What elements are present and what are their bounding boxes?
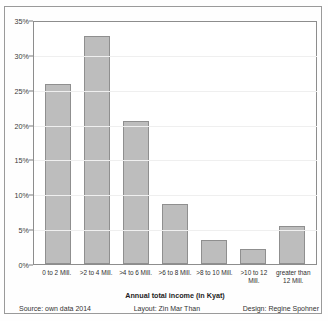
credit-source: Source: own data 2014	[19, 305, 91, 312]
bar-slot	[234, 22, 273, 264]
x-axis-tick-label: >2 to 4 Mill.	[76, 267, 115, 289]
x-axis-tick-label: >4 to 6 Mill.	[116, 267, 155, 289]
y-axis-tick-mark	[29, 265, 33, 266]
credits-row: Source: own data 2014 Layout: Zin Mar Th…	[19, 305, 319, 312]
y-axis-tick-mark	[29, 21, 33, 22]
x-axis-tick-label: >6 to 8 Mill.	[155, 267, 194, 289]
page-frame: 0 to 2 Mill.>2 to 4 Mill.>4 to 6 Mill.>6…	[4, 6, 322, 314]
x-axis-tick-label: greater than 12 Mill.	[274, 267, 313, 289]
plot-area	[33, 21, 317, 265]
bar[interactable]	[279, 226, 305, 264]
bar[interactable]	[123, 121, 149, 264]
bar-slot	[77, 22, 116, 264]
credit-layout: Layout: Zin Mar Than	[134, 305, 200, 312]
x-axis-tick-label: 0 to 2 Mill.	[37, 267, 76, 289]
gridline	[34, 126, 317, 127]
bar-slot	[195, 22, 234, 264]
y-axis-tick-mark	[29, 125, 33, 126]
y-axis-tick-mark	[29, 195, 33, 196]
x-axis-tick-labels: 0 to 2 Mill.>2 to 4 Mill.>4 to 6 Mill.>6…	[33, 267, 317, 289]
bar[interactable]	[162, 204, 188, 264]
gridline	[34, 230, 317, 231]
bar[interactable]	[201, 240, 227, 264]
credit-design: Design: Regine Spohner	[243, 305, 319, 312]
gridline	[34, 56, 317, 57]
x-axis-title: Annual total income (in Kyat)	[33, 291, 317, 300]
bar[interactable]	[45, 84, 71, 264]
x-axis-tick-label: >8 to 10 Mill.	[195, 267, 234, 289]
chart-page: 0 to 2 Mill.>2 to 4 Mill.>4 to 6 Mill.>6…	[0, 0, 328, 321]
y-axis-tick-mark	[29, 160, 33, 161]
gridline	[34, 91, 317, 92]
y-axis-tick-mark	[29, 55, 33, 56]
y-axis-tick-mark	[29, 90, 33, 91]
gridline	[34, 160, 317, 161]
gridline	[34, 195, 317, 196]
x-axis-tick-label: >10 to 12 Mill.	[234, 267, 273, 289]
bar-slot	[155, 22, 194, 264]
y-axis-tick-mark	[29, 230, 33, 231]
bar-slot	[273, 22, 312, 264]
bar-series	[34, 22, 316, 264]
bar[interactable]	[240, 249, 266, 264]
bar-slot	[116, 22, 155, 264]
bar-slot	[38, 22, 77, 264]
